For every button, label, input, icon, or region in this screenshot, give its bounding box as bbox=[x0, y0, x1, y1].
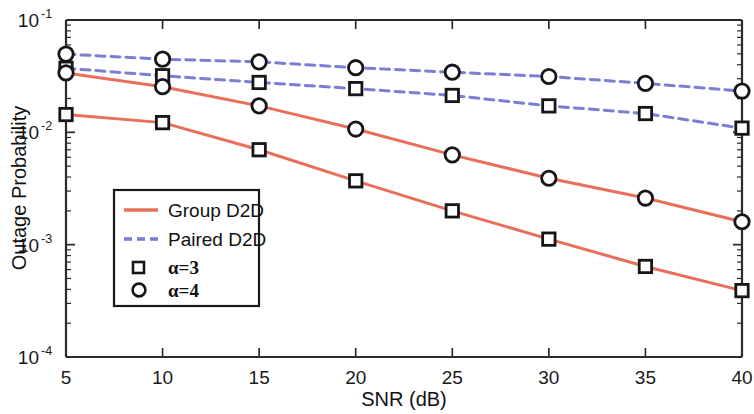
y-axis-title: Outage Probability bbox=[8, 106, 30, 271]
x-axis-title: SNR (dB) bbox=[361, 388, 447, 410]
data-point-marker bbox=[156, 116, 168, 128]
data-point-marker bbox=[543, 233, 555, 245]
data-point-marker bbox=[735, 84, 749, 98]
data-point-marker bbox=[252, 55, 266, 69]
legend-label-alpha-4: α=4 bbox=[168, 280, 199, 301]
x-tick-label-30: 30 bbox=[538, 367, 559, 388]
x-tick-label-25: 25 bbox=[442, 367, 463, 388]
data-point-marker bbox=[446, 89, 458, 101]
chart-legend: Group D2D Paired D2D α=3 α=4 bbox=[114, 190, 266, 306]
data-point-marker bbox=[253, 144, 265, 156]
data-point-marker bbox=[542, 171, 556, 185]
data-point-marker bbox=[350, 82, 362, 94]
svg-text:-3: -3 bbox=[41, 232, 52, 246]
data-point-marker bbox=[155, 79, 169, 93]
data-point-marker bbox=[350, 175, 362, 187]
x-tick-label-40: 40 bbox=[731, 367, 752, 388]
chart-svg: 510152025303540 10-110-210-310-4 Group D… bbox=[0, 0, 754, 414]
data-point-marker bbox=[445, 65, 459, 79]
data-point-marker bbox=[542, 69, 556, 83]
data-point-marker bbox=[735, 215, 749, 229]
data-point-marker bbox=[59, 66, 73, 80]
data-point-marker bbox=[638, 191, 652, 205]
data-point-marker bbox=[349, 61, 363, 75]
legend-label-alpha-3: α=3 bbox=[168, 257, 199, 278]
x-tick-label-35: 35 bbox=[635, 367, 656, 388]
data-point-marker bbox=[736, 284, 748, 296]
x-tick-label-15: 15 bbox=[249, 367, 270, 388]
data-point-marker bbox=[155, 52, 169, 66]
x-tick-label-20: 20 bbox=[345, 367, 366, 388]
legend-label-paired-d2d: Paired D2D bbox=[168, 229, 266, 250]
legend-label-group-d2d: Group D2D bbox=[168, 200, 264, 221]
data-point-marker bbox=[543, 100, 555, 112]
svg-text:10: 10 bbox=[18, 10, 39, 31]
outage-probability-chart: 510152025303540 10-110-210-310-4 Group D… bbox=[0, 0, 754, 414]
data-point-marker bbox=[60, 108, 72, 120]
data-point-marker bbox=[639, 107, 651, 119]
data-point-marker bbox=[349, 122, 363, 136]
x-tick-label-10: 10 bbox=[152, 367, 173, 388]
data-point-marker bbox=[446, 205, 458, 217]
svg-text:-1: -1 bbox=[41, 7, 52, 21]
data-point-marker bbox=[736, 122, 748, 134]
data-point-marker bbox=[59, 47, 73, 61]
data-point-marker bbox=[638, 76, 652, 90]
svg-text:-2: -2 bbox=[41, 119, 52, 133]
x-tick-label-5: 5 bbox=[61, 367, 72, 388]
svg-text:-4: -4 bbox=[41, 344, 52, 358]
data-point-marker bbox=[252, 99, 266, 113]
svg-text:10: 10 bbox=[18, 347, 39, 368]
data-point-marker bbox=[253, 76, 265, 88]
data-point-marker bbox=[445, 148, 459, 162]
data-point-marker bbox=[639, 260, 651, 272]
legend-marker-square bbox=[133, 262, 144, 273]
